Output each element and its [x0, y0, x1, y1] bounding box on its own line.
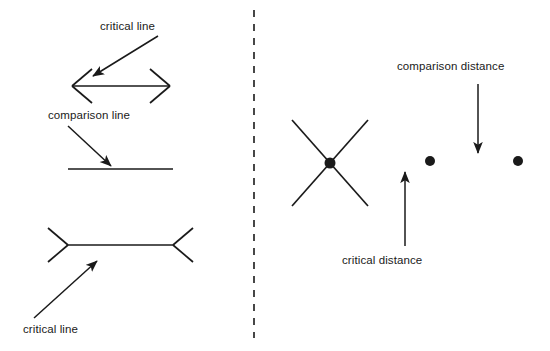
annotation-arrow-to-critical-line-top	[93, 36, 158, 76]
annotation-arrow-to-critical-line-bottom	[34, 261, 97, 318]
left-panel-graphics	[34, 36, 193, 318]
shape-x-cross-with-center-dot	[292, 120, 368, 206]
right-panel-graphics	[292, 84, 523, 246]
shape-double-headed-arrow-outward-fins	[72, 69, 170, 103]
label-comparison-line: comparison line	[48, 109, 130, 122]
label-comparison-distance: comparison distance	[397, 60, 504, 73]
dot-middle	[425, 156, 435, 166]
annotation-arrow-to-comparison-line	[68, 126, 111, 166]
dot-right	[513, 156, 523, 166]
label-critical-distance: critical distance	[342, 254, 422, 267]
x-cross-center-dot	[325, 158, 336, 169]
label-critical-line-bottom: critical line	[23, 323, 78, 336]
label-critical-line-top: critical line	[100, 20, 155, 33]
illusion-figure: critical line comparison line critical l…	[0, 0, 550, 351]
figure-canvas	[0, 0, 550, 351]
shape-double-ended-inward-fins	[48, 228, 193, 262]
